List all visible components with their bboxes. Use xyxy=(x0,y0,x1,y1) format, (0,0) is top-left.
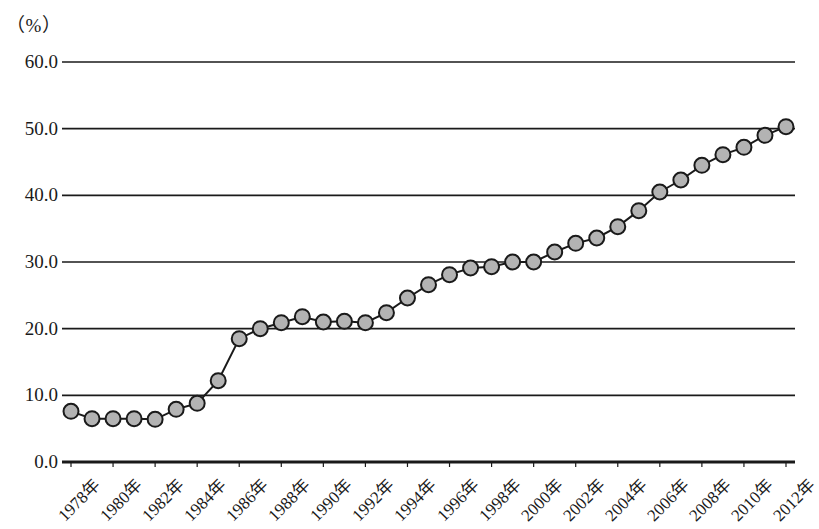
data-point-marker xyxy=(400,291,415,306)
data-point-marker xyxy=(169,402,184,417)
data-point-marker xyxy=(526,255,541,270)
data-point-marker xyxy=(316,315,331,330)
data-point-marker xyxy=(779,119,794,134)
data-point-marker xyxy=(127,411,142,426)
data-point-marker xyxy=(211,373,226,388)
data-point-marker xyxy=(463,261,478,276)
data-point-marker xyxy=(589,231,604,246)
series-markers xyxy=(64,119,794,427)
data-point-marker xyxy=(379,305,394,320)
data-point-marker xyxy=(694,158,709,173)
data-point-marker xyxy=(232,331,247,346)
data-point-marker xyxy=(610,219,625,234)
data-point-marker xyxy=(715,147,730,162)
data-point-marker xyxy=(673,173,688,188)
data-point-marker xyxy=(148,412,163,427)
data-line xyxy=(71,127,786,420)
data-point-marker xyxy=(274,315,289,330)
data-point-marker xyxy=(85,411,100,426)
data-point-marker xyxy=(568,236,583,251)
data-point-marker xyxy=(442,267,457,282)
series-line xyxy=(71,127,786,420)
data-point-marker xyxy=(736,140,751,155)
data-point-marker xyxy=(253,321,268,336)
data-point-marker xyxy=(358,315,373,330)
data-point-marker xyxy=(295,309,310,324)
data-point-marker xyxy=(547,245,562,260)
data-point-marker xyxy=(190,396,205,411)
data-point-marker xyxy=(631,203,646,218)
data-point-marker xyxy=(106,411,121,426)
data-point-marker xyxy=(421,277,436,292)
data-point-marker xyxy=(652,185,667,200)
data-point-marker xyxy=(757,128,772,143)
data-point-marker xyxy=(64,404,79,419)
data-point-marker xyxy=(484,259,499,274)
data-point-marker xyxy=(337,314,352,329)
data-point-marker xyxy=(505,255,520,270)
